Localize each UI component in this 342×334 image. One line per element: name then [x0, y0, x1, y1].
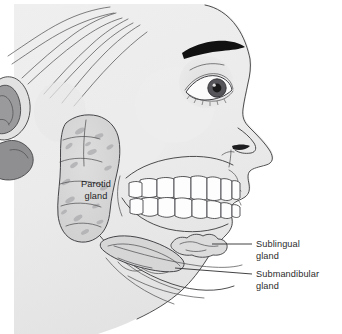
sublingual-label-line2: gland [256, 251, 279, 261]
parotid-gland-label-line1: Parotid [81, 179, 111, 189]
sublingual-label-line1: Sublingual [256, 239, 300, 249]
parotid-gland-label-line2: gland [85, 191, 108, 201]
submandibular-label-line1: Submandibular [256, 269, 319, 279]
submandibular-label-line2: gland [256, 281, 279, 291]
upper-teeth [129, 176, 240, 201]
salivary-glands-figure: Parotid gland [0, 0, 342, 334]
eye-catchlight [213, 84, 216, 87]
anatomical-illustration: Parotid gland [0, 0, 342, 334]
